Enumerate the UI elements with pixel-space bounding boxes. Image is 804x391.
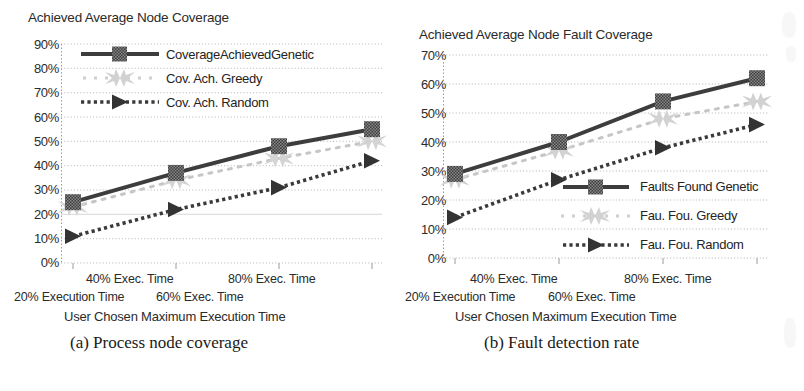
chart-a-ytick-80: 80% [14, 61, 59, 76]
chart-a-xlabel-20: 20% Execution Time [14, 290, 124, 304]
chart-a-xlabel-80: 80% Exec. Time [228, 272, 316, 286]
chart-a-series-random-line [73, 161, 372, 237]
chart-b-gridlines [443, 55, 768, 258]
chart-a-xlabel-60: 60% Exec. Time [156, 290, 244, 304]
chart-a-ytick-50: 50% [14, 134, 59, 149]
chart-a-ytick-20: 20% [14, 207, 59, 222]
chart-b-xlabel-20: 20% Execution Time [405, 290, 515, 304]
chart-b-series-greedy-markers [440, 92, 772, 188]
chart-a-legend-marker-greedy [105, 69, 135, 87]
chart-a-legend-label-random: Cov. Ach. Random [166, 95, 269, 110]
panel-process-node-coverage: Achieved Average Node Coverage 90% 80% 7… [0, 0, 402, 391]
chart-a-caption: (a) Process node coverage [70, 333, 248, 353]
chart-b-ytick-30: 30% [401, 164, 446, 179]
chart-a-ytick-90: 90% [14, 37, 59, 52]
chart-a-series-greedy-markers [58, 132, 387, 216]
scan-artifact [782, 12, 796, 38]
chart-b-xlabel-40: 40% Exec. Time [470, 272, 558, 286]
chart-a-legend-label-greedy: Cov. Ach. Greedy [166, 71, 262, 86]
chart-b-series-greedy-line [455, 101, 757, 179]
chart-a-axis-title: User Chosen Maximum Execution Time [64, 309, 286, 324]
chart-a-title: Achieved Average Node Coverage [28, 10, 229, 25]
chart-a-ytick-0: 0% [14, 255, 59, 270]
chart-b-caption: (b) Fault detection rate [484, 333, 639, 353]
chart-b-ytick-0: 0% [401, 251, 446, 266]
chart-b-plot-area [443, 55, 768, 258]
chart-b-legend-marker-random [588, 238, 604, 253]
chart-b-x-ticks [455, 258, 757, 264]
chart-a-ytick-30: 30% [14, 182, 59, 197]
scan-artifact [786, 46, 796, 62]
chart-a-xlabel-40: 40% Exec. Time [86, 272, 174, 286]
chart-a-ytick-10: 10% [14, 231, 59, 246]
chart-b-ytick-10: 10% [401, 222, 446, 237]
chart-b-xlabel-60: 60% Exec. Time [548, 290, 636, 304]
chart-b-ytick-40: 40% [401, 135, 446, 150]
chart-b-ytick-60: 60% [401, 77, 446, 92]
chart-a-x-ticks [73, 263, 372, 269]
chart-a-legend-marker-genetic [112, 47, 127, 62]
chart-a-legend-marker-random [112, 95, 128, 110]
figure-container: Achieved Average Node Coverage 90% 80% 7… [0, 0, 804, 391]
chart-b-legend [561, 180, 631, 253]
panel-fault-detection-rate: Achieved Average Node Fault Coverage 70%… [402, 0, 804, 391]
chart-b-legend-label-random: Fau. Fou. Random [640, 237, 744, 252]
chart-b-xlabel-80: 80% Exec. Time [624, 272, 712, 286]
chart-a-legend [81, 47, 159, 110]
chart-a-ytick-70: 70% [14, 85, 59, 100]
scan-artifact [784, 318, 796, 348]
chart-b-legend-label-genetic: Faults Found Genetic [640, 179, 758, 194]
chart-a-legend-label-genetic: CoverageAchievedGenetic [166, 47, 314, 62]
chart-b-ytick-20: 20% [401, 193, 446, 208]
chart-b-axis-title: User Chosen Maximum Execution Time [455, 309, 677, 324]
chart-b-series-genetic-line [455, 78, 757, 174]
chart-b-ytick-50: 50% [401, 106, 446, 121]
chart-b-legend-label-greedy: Fau. Fou. Greedy [640, 208, 737, 223]
chart-b-title: Achieved Average Node Fault Coverage [419, 27, 652, 42]
chart-a-ytick-60: 60% [14, 110, 59, 125]
chart-b-legend-marker-genetic [588, 180, 603, 195]
chart-b-ytick-70: 70% [401, 48, 446, 63]
chart-a-ytick-40: 40% [14, 158, 59, 173]
chart-b-series-random-line [455, 125, 757, 218]
chart-a-series-greedy-line [73, 141, 372, 207]
